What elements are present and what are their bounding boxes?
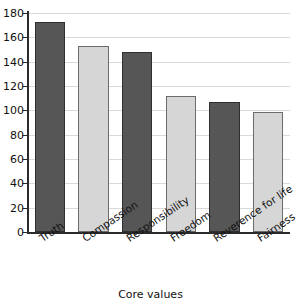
bar [35,22,66,232]
y-axis-tick [22,86,28,87]
y-axis-tick-label: 180 [0,8,24,19]
y-axis-tick [22,135,28,136]
bar-chart: 020406080100120140160180 TruthCompassion… [0,0,301,299]
y-axis-tick [22,37,28,38]
bar [78,46,109,232]
y-axis-tick-label: 100 [0,105,24,116]
x-axis-tick-labels: TruthCompassionResponsibilityFreedomReve… [28,234,301,294]
y-axis-tick-label: 60 [0,154,24,165]
y-axis-tick [22,13,28,14]
y-axis-tick-label: 120 [0,81,24,92]
y-axis-tick-label: 80 [0,130,24,141]
y-axis-tick [22,110,28,111]
x-axis-title: Core values [0,288,301,299]
y-axis-tick [22,62,28,63]
bar-series [28,13,290,232]
y-axis-tick-label: 140 [0,57,24,68]
y-axis-line [27,11,29,234]
y-axis-tick-label: 0 [0,227,24,238]
y-axis-tick [22,159,28,160]
bar [209,102,240,232]
y-axis-tick-label: 160 [0,32,24,43]
y-axis-tick-label: 20 [0,203,24,214]
plot-area [28,13,290,232]
y-axis-tick-labels: 020406080100120140160180 [0,0,24,299]
y-axis-tick [22,183,28,184]
y-axis-tick [22,208,28,209]
y-axis-tick-label: 40 [0,178,24,189]
y-axis-tick [22,232,28,233]
